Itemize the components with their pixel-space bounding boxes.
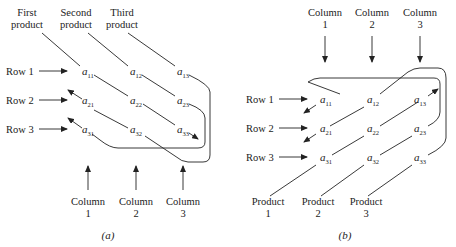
product-2-path — [308, 78, 440, 196]
matrix-product-diagram: First product Second product Third produ… — [0, 0, 456, 247]
svg-text:Product: Product — [350, 196, 383, 207]
product-3-segment — [330, 107, 364, 126]
element-a32: a32 — [367, 151, 379, 165]
product-1-arrow-icon — [428, 89, 438, 96]
element-a13: a13 — [177, 65, 189, 79]
second-product-arrow-icon — [68, 118, 82, 128]
panel-b: Column 1 Column 2 Column 3 Row 1 Row 2 R… — [246, 7, 446, 242]
svg-text:Column: Column — [119, 196, 154, 207]
svg-text:2: 2 — [369, 19, 374, 30]
element-a13: a13 — [414, 93, 426, 107]
panel-a: First product Second product Third produ… — [6, 7, 210, 242]
element-a23: a23 — [414, 122, 426, 136]
svg-text:Product: Product — [252, 196, 285, 207]
caption-b: (b) — [339, 229, 352, 242]
matrix-elements-b: a11 a12 a13 a21 a22 a23 a31 a32 a33 — [320, 93, 426, 165]
svg-text:3: 3 — [180, 208, 185, 219]
third-product-arrow-icon — [68, 90, 82, 99]
row-label-1: Row 1 — [6, 66, 34, 77]
product-3-arrow-icon — [304, 134, 316, 142]
svg-text:Column: Column — [308, 7, 343, 18]
element-a23: a23 — [177, 94, 189, 108]
element-a11: a11 — [320, 93, 332, 107]
svg-text:1: 1 — [265, 208, 270, 219]
svg-text:product: product — [11, 19, 43, 30]
row-label-3: Row 3 — [6, 124, 34, 135]
row-label-2: Row 2 — [6, 95, 34, 106]
svg-text:2: 2 — [133, 208, 138, 219]
caption-a: (a) — [102, 229, 115, 242]
first-product-path — [42, 33, 198, 139]
third-product-path — [128, 33, 210, 162]
element-a32: a32 — [130, 123, 142, 137]
element-a33: a33 — [414, 151, 426, 165]
element-a22: a22 — [130, 94, 142, 108]
svg-text:Second: Second — [61, 7, 93, 18]
svg-text:Third: Third — [110, 7, 134, 18]
element-a33: a33 — [177, 123, 189, 137]
svg-text:Column: Column — [355, 7, 390, 18]
top-label-first-product: First product — [11, 7, 43, 30]
svg-text:Column: Column — [71, 196, 106, 207]
matrix-elements-a: a11 a12 a13 a21 a22 a23 a31 a32 a33 — [82, 65, 189, 137]
svg-text:Column: Column — [166, 196, 201, 207]
top-label-third-product: Third product — [106, 7, 138, 30]
product-1-path — [270, 102, 418, 196]
element-a11: a11 — [82, 65, 94, 79]
row-label-3: Row 3 — [246, 152, 274, 163]
svg-text:Column: Column — [403, 7, 438, 18]
svg-text:3: 3 — [417, 19, 422, 30]
svg-text:Product: Product — [302, 196, 335, 207]
row-label-1: Row 1 — [246, 94, 274, 105]
product-2-arrow-icon — [304, 105, 316, 113]
element-a21: a21 — [82, 94, 94, 108]
third-product-segment — [94, 110, 128, 128]
svg-text:1: 1 — [322, 19, 327, 30]
element-a21: a21 — [320, 122, 332, 136]
svg-text:2: 2 — [315, 208, 320, 219]
element-a31: a31 — [82, 123, 94, 137]
product-paths-a — [42, 33, 210, 162]
column-labels-b: Column 1 Column 2 Column 3 — [308, 7, 438, 30]
svg-text:3: 3 — [363, 208, 368, 219]
element-a12: a12 — [130, 65, 142, 79]
svg-text:product: product — [106, 19, 138, 30]
element-a31: a31 — [320, 151, 332, 165]
element-a12: a12 — [367, 93, 379, 107]
svg-text:1: 1 — [85, 208, 90, 219]
column-labels-a: Column 1 Column 2 Column 3 — [71, 196, 201, 219]
svg-text:product: product — [60, 19, 92, 30]
svg-text:First: First — [17, 7, 36, 18]
top-label-second-product: Second product — [60, 7, 92, 30]
product-3-path — [368, 68, 446, 196]
product-labels-b: Product 1 Product 2 Product 3 — [252, 196, 383, 219]
element-a22: a22 — [367, 122, 379, 136]
row-label-2: Row 2 — [246, 123, 274, 134]
